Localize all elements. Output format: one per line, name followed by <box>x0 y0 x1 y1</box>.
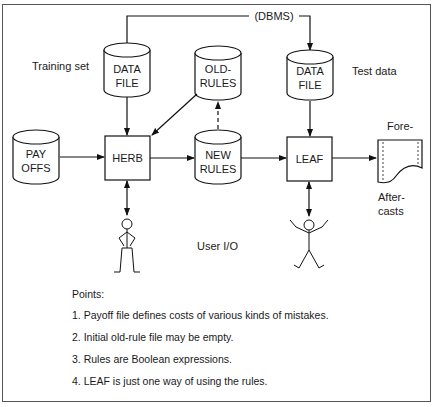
point-item: 1. Payoff file defines costs of various … <box>72 309 329 321</box>
point-item: 4. LEAF is just one way of using the rul… <box>72 375 329 387</box>
dbms-label: (DBMS) <box>249 9 299 23</box>
node-data-file-test: DATA FILE <box>287 64 333 92</box>
node-old-rules: OLD- RULES <box>195 62 241 90</box>
user-io-label: User I/O <box>197 240 238 252</box>
node-payoffs: PAY OFFS <box>13 147 59 175</box>
node-leaf: LEAF <box>287 152 332 166</box>
user-figure-leaf <box>290 220 328 268</box>
points-title: Points: <box>72 288 329 300</box>
test-data-label: Test data <box>352 65 397 77</box>
point-item: 3. Rules are Boolean expressions. <box>72 353 329 365</box>
node-data-file-training: DATA FILE <box>104 62 150 90</box>
point-item: 2. Initial old-rule file may be empty. <box>72 331 329 343</box>
points-list: Points: 1. Payoff file defines costs of … <box>72 288 329 397</box>
document-forecasts <box>378 140 422 183</box>
forecast-label: Fore- <box>387 120 413 132</box>
node-herb: HERB <box>105 151 150 165</box>
user-figure-herb <box>114 219 140 272</box>
training-set-label: Training set <box>32 60 89 72</box>
aftercast-label: After- casts <box>378 190 422 218</box>
node-new-rules: NEW RULES <box>195 148 241 176</box>
